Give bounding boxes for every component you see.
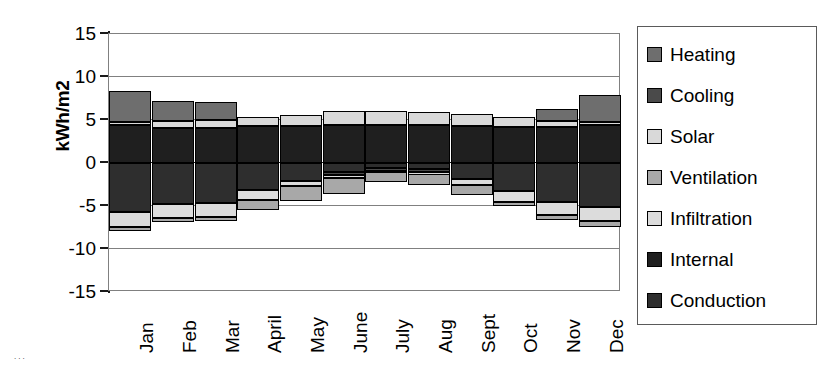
- legend-label: Heating: [670, 45, 736, 64]
- bar-segment: [451, 114, 493, 126]
- bar-column: [536, 34, 578, 290]
- bar-segment: [579, 207, 621, 222]
- bar-segment: [280, 163, 322, 181]
- page-artifact-text: ...: [14, 352, 27, 361]
- bar-segment: [195, 128, 237, 163]
- legend-item-solar[interactable]: Solar: [647, 116, 816, 157]
- legend-swatch-icon: [647, 211, 662, 226]
- bar-segment: [493, 117, 535, 127]
- bar-segment: [323, 111, 365, 125]
- bar-segment: [365, 111, 407, 125]
- bar-segment: [536, 121, 578, 127]
- x-tick-label: Oct: [520, 323, 542, 353]
- bar-segment: [365, 172, 407, 181]
- bar-segment: [579, 122, 621, 125]
- legend-item-cooling[interactable]: Cooling: [647, 75, 816, 116]
- bar-column: [237, 34, 279, 290]
- bar-segment: [237, 163, 279, 190]
- legend-label: Solar: [670, 127, 714, 146]
- bar-segment: [323, 125, 365, 163]
- bar-column: [280, 34, 322, 290]
- bar-segment: [451, 185, 493, 194]
- bar-column: [152, 34, 194, 290]
- bar-segment: [109, 125, 151, 163]
- x-tick-label: Aug: [435, 319, 457, 353]
- bar-segment: [493, 127, 535, 163]
- y-tick-label: -5: [44, 196, 96, 215]
- bar-segment: [280, 186, 322, 201]
- legend-label: Ventilation: [670, 168, 758, 187]
- bar-segment: [493, 202, 535, 206]
- bar-segment: [280, 115, 322, 126]
- bar-segment: [109, 91, 151, 122]
- bar-segment: [323, 178, 365, 194]
- bar-segment: [493, 191, 535, 201]
- bar-segment: [237, 126, 279, 163]
- bar-segment: [451, 126, 493, 163]
- legend-swatch-icon: [647, 47, 662, 62]
- y-tick-label: -10: [44, 239, 96, 258]
- y-tick-label: -15: [44, 282, 96, 301]
- legend-item-ventilation[interactable]: Ventilation: [647, 157, 816, 198]
- bar-column: [451, 34, 493, 290]
- x-tick-label: April: [264, 315, 286, 353]
- bar-segment: [536, 163, 578, 202]
- x-tick-label: July: [392, 319, 414, 353]
- bar-column: [365, 34, 407, 290]
- bar-column: [493, 34, 535, 290]
- bar-segment: [195, 102, 237, 121]
- bar-segment: [579, 125, 621, 163]
- bar-segment: [152, 101, 194, 122]
- x-tick-label: Feb: [179, 320, 201, 353]
- bar-segment: [237, 190, 279, 200]
- bar-segment: [195, 203, 237, 217]
- bar-segment: [579, 221, 621, 226]
- legend-item-infiltration[interactable]: Infiltration: [647, 198, 816, 239]
- legend-swatch-icon: [647, 88, 662, 103]
- bar-segment: [280, 126, 322, 163]
- bar-segment: [195, 163, 237, 203]
- x-tick-label: Mar: [222, 320, 244, 353]
- legend-swatch-icon: [647, 129, 662, 144]
- bar-segment: [109, 122, 151, 125]
- bar-segment: [195, 217, 237, 221]
- bar-segment: [408, 112, 450, 125]
- bar-segment: [109, 212, 151, 227]
- bar-segment: [365, 125, 407, 163]
- bar-column: [579, 34, 621, 290]
- bar-segment: [195, 120, 237, 127]
- bar-segment: [536, 109, 578, 121]
- energy-balance-chart: kWh/m2 151050-5-10-15 JanFebMarAprilMayJ…: [0, 0, 826, 379]
- bar-segment: [109, 163, 151, 212]
- bar-segment: [536, 127, 578, 163]
- bar-segment: [579, 163, 621, 207]
- bar-column: [109, 34, 151, 290]
- bar-segment: [237, 117, 279, 126]
- x-tick-label: Jan: [136, 322, 158, 353]
- plot-area: [108, 33, 620, 291]
- bar-segment: [152, 163, 194, 204]
- y-tick-label: 10: [44, 67, 96, 86]
- legend-label: Internal: [670, 250, 733, 269]
- legend-label: Infiltration: [670, 209, 752, 228]
- y-tick-label: 0: [44, 153, 96, 172]
- bar-segment: [408, 174, 450, 185]
- legend-swatch-icon: [647, 252, 662, 267]
- bar-segment: [493, 163, 535, 191]
- legend-item-heating[interactable]: Heating: [647, 34, 816, 75]
- legend-swatch-icon: [647, 293, 662, 308]
- x-tick-label: Sept: [478, 314, 500, 353]
- bar-column: [323, 34, 365, 290]
- y-tick-label: 15: [44, 24, 96, 43]
- legend-swatch-icon: [647, 170, 662, 185]
- bar-segment: [152, 204, 194, 218]
- legend-item-internal[interactable]: Internal: [647, 239, 816, 280]
- legend-item-conduction[interactable]: Conduction: [647, 280, 816, 321]
- x-tick-label: June: [350, 312, 372, 353]
- legend-label: Conduction: [670, 291, 766, 310]
- bar-segment: [152, 218, 194, 222]
- bar-column: [195, 34, 237, 290]
- bar-segment: [323, 163, 365, 172]
- bar-segment: [237, 200, 279, 210]
- bar-segment: [451, 163, 493, 179]
